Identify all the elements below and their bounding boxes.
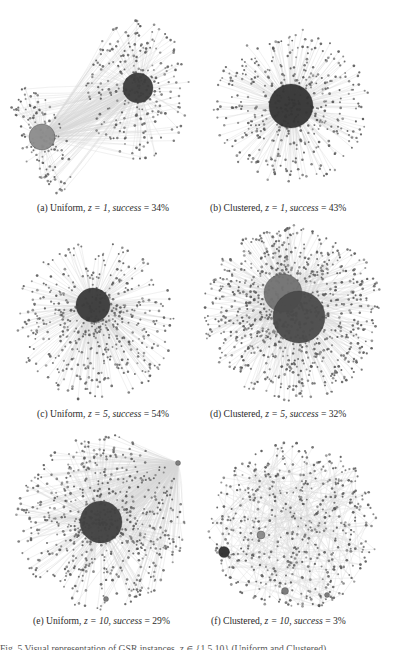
figure-caption-truncated: Fig. 5 Visual representation of GSR inst… (0, 643, 393, 650)
hub-node-b-0 (269, 84, 313, 128)
hub-node-f-3 (325, 593, 330, 598)
caption-a-prefix: (a) Uniform, (37, 202, 88, 213)
figure: (a) Uniform, z = 1, success = 34% (b) Cl… (0, 0, 393, 650)
caption-c-prefix: (c) Uniform, (37, 408, 88, 419)
hub-node-e-0 (80, 501, 122, 543)
panel-f-graph (208, 442, 378, 608)
caption-a-z: z = 1, (88, 202, 113, 213)
panel-e-graph (15, 434, 185, 610)
caption-f-success-value: = 3% (323, 615, 346, 626)
hub-node-f-2 (282, 588, 289, 595)
caption-d-prefix: (d) Clustered, (210, 408, 265, 419)
hub-node-f-0 (219, 547, 230, 558)
panel-c-graph (17, 243, 175, 400)
caption-b-success-value: = 43% (319, 202, 347, 213)
caption-f-success-word: success (294, 615, 323, 626)
hub-node-e-2 (104, 597, 109, 602)
caption-d-success-value: = 32% (319, 408, 347, 419)
caption-b-prefix: (b) Clustered, (210, 202, 265, 213)
panel-a-graph (10, 19, 189, 194)
panel-b-graph (213, 29, 369, 183)
caption-f-prefix: (f) Clustered, (211, 615, 265, 626)
panel-d-graph (204, 224, 381, 402)
network-graphs (0, 0, 393, 650)
caption-a-success-word: success (113, 202, 142, 213)
hub-node-a-1 (123, 73, 153, 103)
caption-e-success-word: success (113, 615, 142, 626)
hub-node-c-0 (76, 288, 110, 322)
hub-node-a-0 (29, 124, 55, 150)
caption-f-z: z = 10, (265, 615, 294, 626)
caption-a-success-value: = 34% (141, 202, 169, 213)
caption-c: (c) Uniform, z = 5, success = 54% (37, 408, 169, 419)
caption-c-z: z = 5, (88, 408, 113, 419)
caption-b-success-word: success (290, 202, 319, 213)
caption-e-z: z = 10, (84, 615, 113, 626)
caption-b: (b) Clustered, z = 1, success = 43% (210, 202, 346, 213)
caption-d-z: z = 5, (265, 408, 290, 419)
caption-c-success-value: = 54% (141, 408, 169, 419)
caption-d: (d) Clustered, z = 5, success = 32% (210, 408, 346, 419)
caption-b-z: z = 1, (265, 202, 290, 213)
caption-e-success-value: = 29% (142, 615, 170, 626)
caption-e: (e) Uniform, z = 10, success = 29% (33, 615, 170, 626)
hub-node-e-1 (176, 461, 181, 466)
caption-a: (a) Uniform, z = 1, success = 34% (37, 202, 169, 213)
caption-e-prefix: (e) Uniform, (33, 615, 84, 626)
caption-f: (f) Clustered, z = 10, success = 3% (211, 615, 346, 626)
caption-d-success-word: success (290, 408, 319, 419)
hub-node-f-1 (257, 531, 265, 539)
hub-node-d-1 (273, 291, 325, 343)
caption-c-success-word: success (113, 408, 142, 419)
